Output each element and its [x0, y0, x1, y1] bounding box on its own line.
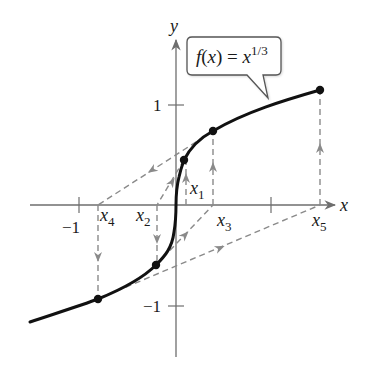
point-x2: [152, 261, 160, 269]
point-x4: [94, 295, 102, 303]
point-x3: [209, 127, 217, 135]
point-x1: [180, 156, 188, 164]
x-axis-label: x: [339, 195, 348, 215]
function-callout: f(x) = x1/3: [187, 37, 281, 98]
y-tick-label-neg1: −1: [143, 297, 161, 316]
newton-method-diagram: −1 1 −1 x y: [0, 0, 367, 371]
function-curve: [30, 90, 320, 322]
y-tick-label-1: 1: [153, 96, 162, 115]
iterate-points: [94, 86, 324, 303]
arrow-right-icon: [214, 242, 226, 253]
x-tick-label-neg1: −1: [62, 218, 80, 237]
newton-iteration-lines: [98, 90, 320, 299]
label-x4: x4: [99, 205, 115, 229]
label-x2: x2: [135, 205, 151, 229]
label-x1: x1: [189, 178, 205, 202]
y-axis-label: y: [168, 16, 178, 36]
direction-arrows: [94, 143, 324, 262]
arrow-down-icon: [94, 252, 102, 262]
arrow-down-left-icon: [146, 164, 159, 176]
tangent-x4-to-x5: [98, 205, 320, 299]
point-x5: [316, 86, 324, 94]
label-x5: x5: [311, 210, 327, 234]
label-x3: x3: [216, 210, 232, 234]
